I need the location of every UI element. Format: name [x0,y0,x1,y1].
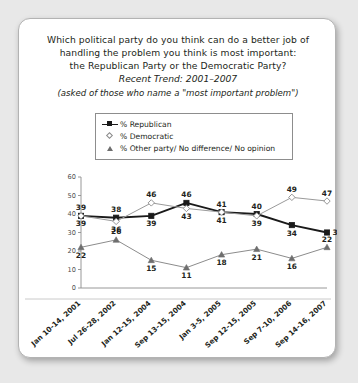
legend-label-other: % Other party/ No difference/ No opinion [120,144,275,153]
legend-item-republican: % Republican [102,118,286,130]
svg-text:34: 34 [287,229,297,238]
svg-text:39: 39 [76,203,86,212]
svg-text:40: 40 [68,210,76,218]
svg-text:10: 10 [68,266,76,274]
page-title-line-3: the Republican Party or the Democratic P… [19,59,337,72]
legend-marker-square-icon [102,119,118,129]
svg-text:22: 22 [322,235,332,244]
svg-text:30: 30 [333,228,338,237]
svg-text:0: 0 [72,284,76,292]
chart-title-block: Which political party do you think can d… [19,33,337,101]
line-chart-svg: 0102030405060 39383946414034303936464341… [19,171,337,359]
svg-text:41: 41 [216,200,226,209]
svg-text:16: 16 [287,262,297,271]
svg-text:50: 50 [68,192,76,200]
chart-x-category-labels: Jan 10-14, 2001Jul 26-28, 2002Jan 12-15,… [28,299,328,350]
svg-text:30: 30 [68,229,76,237]
svg-text:46: 46 [181,190,191,199]
svg-text:18: 18 [216,258,226,267]
svg-text:39: 39 [146,219,156,228]
svg-text:38: 38 [111,205,121,214]
page-title-line-1: Which political party do you think can d… [19,33,337,46]
chart-plot-area: 0102030405060 39383946414034303936464341… [19,171,337,359]
legend-label-democratic: % Democratic [120,132,173,141]
legend-label-republican: % Republican [120,120,172,129]
svg-text:47: 47 [322,189,332,198]
svg-text:22: 22 [76,251,86,260]
svg-text:15: 15 [146,264,156,273]
svg-text:39: 39 [76,219,86,228]
page-title-line-2: handling the problem you think is most i… [19,46,337,59]
svg-text:60: 60 [68,173,76,181]
chart-card: Which political party do you think can d… [18,18,336,358]
svg-text:41: 41 [216,216,226,225]
legend-marker-diamond-icon [102,131,118,141]
svg-text:46: 46 [146,190,156,199]
chart-axes: 0102030405060 [25,173,331,299]
chart-point-labels: 3938394641403430393646434139494722261511… [76,185,337,280]
legend-marker-triangle-icon [102,143,118,153]
svg-text:20: 20 [68,247,76,255]
svg-text:43: 43 [181,212,191,221]
legend-item-democratic: % Democratic [102,130,286,142]
svg-text:39: 39 [252,219,262,228]
svg-text:21: 21 [252,253,262,262]
chart-subtitle-trend: Recent Trend: 2001–2007 [19,72,337,86]
svg-text:11: 11 [181,271,191,280]
svg-text:26: 26 [111,227,121,236]
legend-item-other: % Other party/ No difference/ No opinion [102,142,286,154]
svg-text:49: 49 [287,185,297,194]
chart-subtitle-note: (asked of those who name a "most importa… [19,86,337,101]
chart-legend: % Republican % Democratic % Other party/… [95,113,293,160]
svg-text:40: 40 [252,202,262,211]
